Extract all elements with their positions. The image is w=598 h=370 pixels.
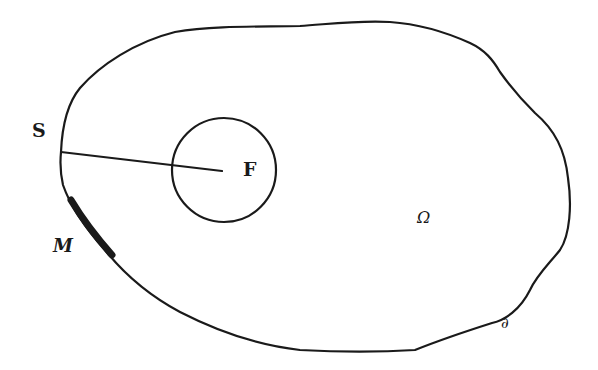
boundary-label: ∂ xyxy=(501,316,509,331)
domain-boundary xyxy=(60,21,570,351)
source-label: S xyxy=(32,121,46,140)
focus-label: F xyxy=(243,160,257,179)
thick-segment-m xyxy=(71,200,112,255)
inner-circle xyxy=(172,118,276,222)
connector-line xyxy=(61,152,222,171)
domain-label: Ω xyxy=(417,210,430,226)
segment-label: M xyxy=(53,237,73,255)
